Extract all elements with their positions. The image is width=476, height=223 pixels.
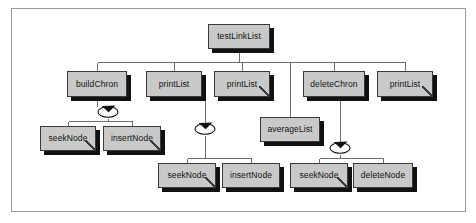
node-deleteNode[interactable]: deleteNode [353, 163, 413, 188]
node-insertNode-1[interactable]: insertNode [103, 126, 161, 151]
node-seekNode-3[interactable]: seekNode [290, 163, 348, 188]
call-structure-diagram: testLinkList buildChron printList printL… [0, 0, 476, 223]
node-label: deleteChron [310, 80, 357, 89]
node-label: insertNode [111, 134, 153, 143]
node-label: printList [390, 80, 421, 89]
node-deleteChron[interactable]: deleteChron [303, 71, 365, 97]
node-label: deleteNode [361, 171, 405, 180]
node-label: seekNode [48, 134, 87, 143]
node-insertNode-2[interactable]: insertNode [222, 163, 280, 188]
node-seekNode-2[interactable]: seekNode [158, 163, 216, 188]
node-label: seekNode [167, 171, 206, 180]
node-label: buildChron [76, 80, 118, 89]
node-printList-2[interactable]: printList [214, 71, 270, 97]
node-seekNode-1[interactable]: seekNode [40, 126, 96, 151]
node-averageList[interactable]: averageList [260, 117, 320, 142]
node-testLinkList[interactable]: testLinkList [208, 24, 270, 49]
node-label: seekNode [299, 171, 338, 180]
node-label: averageList [267, 125, 312, 134]
node-label: testLinkList [217, 32, 261, 41]
node-label: printList [227, 80, 258, 89]
node-label: insertNode [230, 171, 272, 180]
node-buildChron[interactable]: buildChron [67, 71, 127, 97]
node-printList-1[interactable]: printList [146, 71, 202, 97]
node-printList-3[interactable]: printList [377, 71, 433, 97]
node-label: printList [159, 80, 190, 89]
